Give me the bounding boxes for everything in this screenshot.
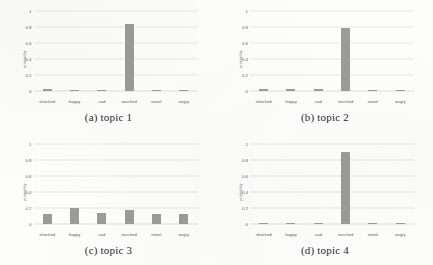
- x-tick-label-shocked: shocked: [250, 99, 277, 104]
- chart-caption-b: (b) topic 2: [301, 111, 349, 123]
- bar-slot: [34, 11, 61, 91]
- bar-slot: [277, 11, 304, 91]
- bar-slot: [305, 11, 332, 91]
- bar-slot: [359, 11, 386, 91]
- x-tick-label-shocked: shocked: [34, 99, 61, 104]
- chart-panel-c: probability 1 0.8 0.6 0.4 0.2 0 shockedh…: [0, 133, 217, 265]
- bar-slot: [387, 11, 414, 91]
- x-tick-label-shocked: shocked: [34, 232, 61, 237]
- bar-novel: [368, 223, 377, 224]
- x-tick-label-happy: happy: [61, 232, 88, 237]
- chart-panel-b: probability 1 0.8 0.6 0.4 0.2 0 shockedh…: [217, 0, 433, 133]
- x-tick-label-sad: sad: [305, 232, 332, 237]
- bar-slot: [277, 144, 304, 224]
- y-tick-label: 0.8: [242, 25, 248, 30]
- x-axis-labels-a: shockedhappysadtouchednovelangry: [34, 99, 198, 104]
- bar-shocked: [43, 214, 52, 224]
- y-tick-label: 0: [246, 89, 248, 94]
- bar-slot: [250, 11, 277, 91]
- plot-area-a: 1 0.8 0.6 0.4 0.2 0: [34, 11, 198, 91]
- x-tick-label-angry: angry: [170, 99, 197, 104]
- bar-slot: [332, 144, 359, 224]
- x-tick-label-sad: sad: [88, 232, 115, 237]
- x-tick-label-novel: novel: [359, 232, 386, 237]
- x-tick-label-happy: happy: [277, 232, 304, 237]
- bar-slot: [115, 144, 142, 224]
- bar-happy: [286, 223, 295, 224]
- x-tick-label-novel: novel: [143, 232, 170, 237]
- bar-happy: [70, 208, 79, 224]
- chart-caption-d: (d) topic 4: [301, 244, 349, 256]
- bar-novel: [152, 90, 161, 91]
- plot-area-d: 1 0.8 0.6 0.4 0.2 0: [250, 144, 414, 224]
- y-tick-label: 0: [246, 222, 248, 227]
- bar-happy: [286, 89, 295, 91]
- x-tick-label-sad: sad: [88, 99, 115, 104]
- y-tick-label: 0.4: [242, 190, 248, 195]
- y-tick-label: 0: [29, 89, 31, 94]
- bar-shocked: [259, 89, 268, 91]
- chart-caption-a: (a) topic 1: [85, 111, 132, 123]
- y-tick-label: 0.4: [242, 57, 248, 62]
- x-tick-label-novel: novel: [143, 99, 170, 104]
- y-tick-label: 0.6: [25, 41, 31, 46]
- chart-area-b: probability 1 0.8 0.6 0.4 0.2 0 shockedh…: [234, 9, 416, 109]
- bar-series-c: [34, 144, 198, 224]
- bar-slot: [250, 144, 277, 224]
- x-axis-labels-c: shockedhappysadtouchednovelangry: [34, 232, 198, 237]
- y-tick-label: 0.8: [25, 158, 31, 163]
- bar-sad: [314, 223, 323, 224]
- bar-slot: [88, 144, 115, 224]
- bar-shocked: [43, 89, 52, 91]
- plot-area-c: 1 0.8 0.6 0.4 0.2 0: [34, 144, 198, 224]
- x-tick-label-touched: touched: [332, 99, 359, 104]
- bar-happy: [70, 90, 79, 91]
- x-tick-label-touched: touched: [332, 232, 359, 237]
- y-tick-label: 0.2: [242, 73, 248, 78]
- y-tick-label: 0.6: [242, 174, 248, 179]
- bar-novel: [368, 90, 377, 91]
- x-tick-label-happy: happy: [277, 99, 304, 104]
- bar-sad: [314, 89, 323, 91]
- bar-slot: [115, 11, 142, 91]
- x-tick-label-shocked: shocked: [250, 232, 277, 237]
- bar-slot: [143, 11, 170, 91]
- bar-sad: [97, 213, 106, 224]
- bar-touched: [341, 152, 350, 224]
- y-tick-label: 1: [246, 142, 248, 147]
- bar-shocked: [259, 223, 268, 224]
- bar-novel: [152, 214, 161, 224]
- bar-series-a: [34, 11, 198, 91]
- y-tick-label: 1: [29, 9, 31, 14]
- chart-panel-a: probability 1 0.8 0.6 0.4 0.2 0 shockedh…: [0, 0, 217, 133]
- y-tick-label: 0.2: [25, 206, 31, 211]
- bar-slot: [88, 11, 115, 91]
- y-tick-label: 0.6: [25, 174, 31, 179]
- x-tick-label-touched: touched: [115, 232, 142, 237]
- chart-area-a: probability 1 0.8 0.6 0.4 0.2 0 shockedh…: [18, 9, 200, 109]
- bar-touched: [125, 210, 134, 224]
- bar-slot: [170, 144, 197, 224]
- y-tick-label: 0.6: [242, 41, 248, 46]
- bar-touched: [125, 24, 134, 91]
- x-tick-label-angry: angry: [387, 232, 414, 237]
- y-tick-label: 0.2: [242, 206, 248, 211]
- bar-slot: [359, 144, 386, 224]
- y-tick-label: 0: [29, 222, 31, 227]
- x-tick-label-touched: touched: [115, 99, 142, 104]
- bar-slot: [387, 144, 414, 224]
- bar-slot: [143, 144, 170, 224]
- x-axis-labels-b: shockedhappysadtouchednovelangry: [250, 99, 414, 104]
- y-tick-label: 1: [29, 142, 31, 147]
- chart-caption-c: (c) topic 3: [85, 244, 132, 256]
- y-tick-label: 0.8: [242, 158, 248, 163]
- y-tick-label: 0.4: [25, 57, 31, 62]
- bar-touched: [341, 28, 350, 91]
- bar-slot: [61, 11, 88, 91]
- bar-slot: [61, 144, 88, 224]
- plot-area-b: 1 0.8 0.6 0.4 0.2 0: [250, 11, 414, 91]
- figure-grid: probability 1 0.8 0.6 0.4 0.2 0 shockedh…: [0, 0, 433, 265]
- y-tick-label: 1: [246, 9, 248, 14]
- x-axis-labels-d: shockedhappysadtouchednovelangry: [250, 232, 414, 237]
- y-tick-label: 0.2: [25, 73, 31, 78]
